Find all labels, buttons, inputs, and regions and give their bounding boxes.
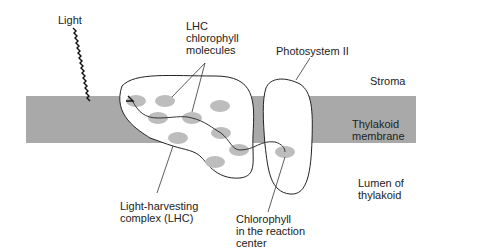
light-ray-icon — [73, 28, 90, 101]
light-label: Light — [58, 14, 82, 26]
lhc-chlorophyll-label: LHC chlorophyll molecules — [186, 20, 239, 56]
reaction-center-label: Chlorophyll in the reaction center — [236, 213, 305, 249]
lhc-complex-outline — [120, 75, 254, 178]
photosystem-diagram: Light LHC chlorophyll molecules Photosys… — [0, 0, 478, 252]
thylakoid-membrane-label: Thylakoid membrane — [352, 118, 405, 142]
stroma-label: Stroma — [370, 75, 405, 87]
lhc-complex-label: Light-harvesting complex (LHC) — [120, 200, 198, 224]
photosystem-ii-label: Photosystem II — [276, 45, 349, 57]
lumen-label: Lumen of thylakoid — [358, 177, 404, 201]
photosystem-ii-outline — [263, 79, 312, 194]
